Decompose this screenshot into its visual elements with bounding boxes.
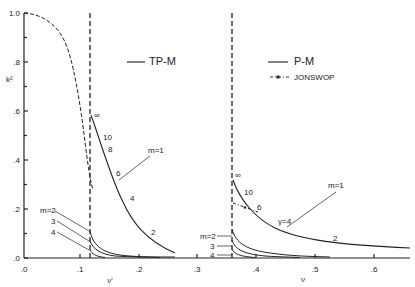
x-tick-labels: .0 .1 .2 .3 .4 .5 .6 [21, 265, 378, 274]
jonswop-marker [244, 206, 247, 209]
legend-jonswop-label: JONSWOP [294, 73, 334, 82]
x-axis-label-left: ν' [107, 276, 113, 285]
tpm-label-10: 10 [103, 133, 112, 142]
pm-m4-curve [232, 249, 255, 258]
axes [24, 13, 410, 258]
pm-label-m4: 4 [210, 251, 215, 260]
tpm-label-m4: 4 [51, 228, 56, 237]
pm-label-inf: ∞ [235, 171, 241, 180]
pm-label-gamma4: γ=4 [278, 217, 292, 226]
x-tick-4: .4 [253, 265, 260, 274]
y-tick-3: .6 [13, 107, 20, 116]
y-tick-4: .8 [13, 58, 20, 67]
tpm-label-8: 8 [108, 145, 113, 154]
legend-jonswop: JONSWOP [270, 73, 334, 82]
y-tick-0: .0 [13, 254, 20, 263]
pm-label-m1: m=1 [328, 181, 344, 190]
x-tick-6: .6 [371, 265, 378, 274]
pm-m1-curve [233, 180, 410, 248]
tpm-label-m2: m=2 [40, 206, 56, 215]
legend-pm: P-M [268, 55, 314, 67]
y-tick-1: .2 [13, 205, 20, 214]
envelope-curve [24, 13, 93, 190]
tpm-label-m3: 3 [51, 217, 56, 226]
legend-tpm: TP-M [127, 55, 176, 67]
pm-label-10: 10 [244, 188, 253, 197]
y-tick-2: .4 [13, 156, 20, 165]
tpm-label-m1: m=1 [148, 146, 164, 155]
tpm-m3-curve [90, 241, 160, 258]
tpm-label-inf: ∞ [94, 111, 100, 120]
tpm-label-2: 2 [151, 228, 156, 237]
y-tick-5: 1.0 [9, 9, 21, 18]
pm-label-2: 2 [333, 234, 338, 243]
y-axis-label: k² [6, 75, 13, 84]
pm-label-m3: 3 [210, 242, 215, 251]
pm-annotations: ∞ 10 6 γ=4 2 m=1 m=2 3 4 [200, 171, 344, 260]
tpm-m4-curve [90, 250, 105, 258]
legend-pm-label: P-M [294, 55, 314, 67]
tpm-label-4: 4 [130, 194, 135, 203]
y-tick-labels: .0 .2 .4 .6 .8 1.0 [9, 9, 21, 263]
tpm-annotations: ∞ 10 8 6 4 2 m=1 m=2 3 4 [40, 111, 164, 250]
legend-tpm-label: TP-M [149, 55, 176, 67]
x-tick-2: .2 [136, 265, 143, 274]
chart: .0 .2 .4 .6 .8 1.0 k² .0 .1 .2 .3 .4 .5 … [0, 0, 415, 287]
tpm-label-6: 6 [116, 169, 121, 178]
x-tick-1: .1 [77, 265, 84, 274]
x-tick-0: .0 [21, 265, 28, 274]
x-tick-3: .3 [194, 265, 201, 274]
x-axis-label-right: ν [301, 275, 305, 284]
pm-label-6: 6 [257, 203, 262, 212]
pm-label-m2: m=2 [200, 232, 216, 241]
x-tick-5: .5 [312, 265, 319, 274]
